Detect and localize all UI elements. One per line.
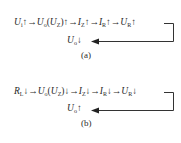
arrowhead-b-icon — [91, 108, 99, 114]
feedback-arrows — [0, 0, 181, 143]
feedback-arrow-a — [97, 24, 174, 42]
feedback-arrow-b — [97, 93, 174, 111]
arrowhead-a-icon — [91, 39, 99, 45]
